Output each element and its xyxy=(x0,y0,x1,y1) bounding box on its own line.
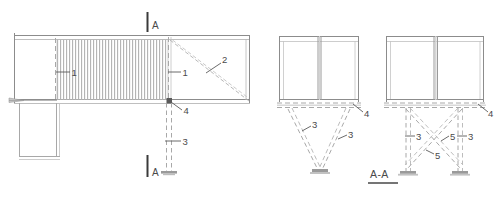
section-v-base-band xyxy=(277,103,361,108)
section-x-leg-right xyxy=(458,108,463,172)
section-marker-bottom-letter: A xyxy=(152,167,159,178)
callout-section-x-cross-upper: 5 xyxy=(450,131,455,142)
callout-section-v-brace-left: 3 xyxy=(312,119,317,130)
callout-plan-node: 4 xyxy=(184,105,189,116)
callout-plan-post: 3 xyxy=(183,136,188,147)
plan-view: 1 1 2 3 4 A xyxy=(9,12,250,178)
section-v-base-plate xyxy=(310,169,330,174)
section-x-base-band xyxy=(384,103,486,108)
callout-section-x-cross-lower: 5 xyxy=(435,150,440,161)
callout-section-x-node: 4 xyxy=(488,108,493,119)
section-x-frame xyxy=(386,36,484,102)
callout-section-x-leg-left: 3 xyxy=(416,131,421,142)
section-x-center-post xyxy=(434,36,438,100)
leader-section-x-cross-upper xyxy=(441,136,449,141)
section-x-base-plate-left xyxy=(398,171,418,176)
callout-section-x-leg-right: 3 xyxy=(468,131,473,142)
leader-section-x-cross-lower xyxy=(426,150,434,154)
plan-vertical-post xyxy=(167,103,172,172)
callout-plan-diagonal: 2 xyxy=(222,54,227,65)
plan-gridline-right xyxy=(169,37,172,101)
section-v-brace-right xyxy=(319,108,351,170)
callout-plan-panel-left: 1 xyxy=(72,67,77,78)
leader-section-v-left xyxy=(302,126,311,131)
callout-section-v-node: 4 xyxy=(364,108,369,119)
section-view-v-brace: 3 3 4 xyxy=(277,36,369,174)
section-view-title: A-A xyxy=(368,168,398,183)
technical-drawing-canvas: 1 1 2 3 4 A xyxy=(0,0,499,197)
plan-edge-arrow-icon xyxy=(9,98,57,103)
drawing-sheet: 1 1 2 3 4 A xyxy=(0,0,499,197)
section-view-title-text: A-A xyxy=(370,168,389,180)
plan-top-chord xyxy=(14,36,250,40)
section-x-base-plate-right xyxy=(450,171,470,176)
plan-right-end xyxy=(246,35,250,103)
section-v-center-post xyxy=(318,36,321,100)
section-marker-top-letter: A xyxy=(152,20,159,31)
section-v-brace-left xyxy=(288,108,322,170)
callout-section-v-brace-right: 3 xyxy=(348,129,353,140)
section-x-leg-left xyxy=(406,108,411,172)
callout-plan-panel-right: 1 xyxy=(183,67,188,78)
section-view-x-brace: 3 3 5 5 4 xyxy=(384,36,493,176)
leader-section-v-right xyxy=(338,135,347,139)
plan-lower-left-block xyxy=(19,103,60,160)
plan-bottom-chord xyxy=(14,100,250,104)
plan-post-base-plate xyxy=(161,171,177,175)
